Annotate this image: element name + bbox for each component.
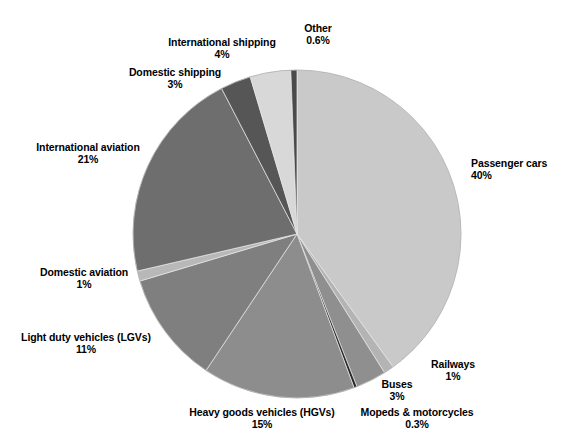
pie-chart-figure: Passenger cars40%Railways1%Buses3%Mopeds… (0, 0, 584, 443)
pie-slice-label-value: 1% (40, 278, 128, 290)
pie-slice-label-name: Heavy goods vehicles (HGVs) (189, 406, 335, 418)
pie-slice-label-name: Passenger cars (471, 157, 547, 169)
pie-slice-label: Other0.6% (304, 22, 332, 47)
pie-slice-label: Heavy goods vehicles (HGVs)15% (189, 406, 335, 431)
pie-slice-label: Domestic aviation1% (40, 266, 128, 291)
pie-slice-label-value: 0.6% (304, 34, 332, 46)
pie-slice-label: International shipping4% (168, 36, 275, 61)
pie-slice-label-name: Railways (431, 358, 475, 370)
pie-slice-label: Mopeds & motorcycles0.3% (361, 406, 474, 431)
pie-slice-label: Railways1% (431, 358, 475, 383)
pie-chart-svg (0, 0, 584, 443)
pie-slice-label-value: 1% (431, 370, 475, 382)
pie-slice-label: International aviation21% (36, 141, 139, 166)
pie-slice-label-name: Domestic shipping (129, 66, 221, 78)
pie-slice-label-value: 4% (168, 48, 275, 60)
pie-slice-label-name: Other (304, 22, 332, 34)
pie-slice-label-name: International aviation (36, 141, 139, 153)
pie-slice-label-value: 21% (36, 153, 139, 165)
pie-slice-label-value: 3% (381, 390, 412, 402)
pie-slice-label-value: 11% (21, 343, 151, 355)
pie-slice-label-value: 40% (471, 169, 547, 181)
pie-slice-label-name: International shipping (168, 36, 275, 48)
pie-slice-label-name: Domestic aviation (40, 266, 128, 278)
pie-slice-label-name: Mopeds & motorcycles (361, 406, 474, 418)
pie-slice-label: Light duty vehicles (LGVs)11% (21, 331, 151, 356)
pie-slice-label-value: 0.3% (361, 418, 474, 430)
pie-slice-label-name: Light duty vehicles (LGVs) (21, 331, 151, 343)
pie-slice-label-value: 15% (189, 418, 335, 430)
pie-slice-label: Buses3% (381, 378, 412, 403)
pie-slices-group (133, 70, 461, 398)
pie-slice-label: Domestic shipping3% (129, 66, 221, 91)
pie-slice-label: Passenger cars40% (471, 157, 547, 182)
pie-slice-label-name: Buses (381, 378, 412, 390)
pie-slice-label-value: 3% (129, 78, 221, 90)
